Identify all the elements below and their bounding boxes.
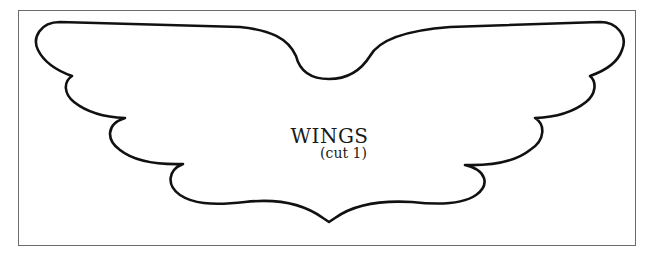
- wing-path: [36, 22, 624, 222]
- pattern-subtitle: (cut 1): [14, 145, 659, 161]
